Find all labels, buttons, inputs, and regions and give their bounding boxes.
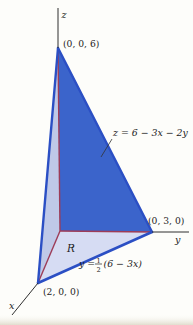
z-axis-label: z bbox=[61, 9, 68, 20]
x-axis-line bbox=[12, 283, 38, 315]
plane-over-region-diagram: z (0, 0, 6) z = 6 − 3x − 2y (0, 3, 0) y … bbox=[0, 0, 193, 325]
figure-canvas: z (0, 0, 6) z = 6 − 3x − 2y (0, 3, 0) y … bbox=[0, 0, 193, 325]
y-axis-label: y bbox=[174, 234, 181, 245]
region-R-label: R bbox=[66, 242, 75, 254]
hidden-y-axis-segment bbox=[60, 231, 152, 232]
page-edge-shading bbox=[0, 314, 193, 325]
boundary-equation-prefix: y = bbox=[78, 258, 95, 269]
boundary-equation-suffix: (6 − 3x) bbox=[104, 258, 143, 269]
x-axis-label: x bbox=[9, 300, 15, 311]
boundary-equation-label: y = 1 2 (6 − 3x) bbox=[78, 257, 142, 274]
apex-point-label: (0, 0, 6) bbox=[63, 38, 99, 49]
x-intercept-point-label: (2, 0, 0) bbox=[43, 286, 79, 297]
fraction-denominator: 2 bbox=[96, 266, 100, 274]
plane-equation-label: z = 6 − 3x − 2y bbox=[112, 127, 189, 138]
fraction-numerator: 1 bbox=[96, 257, 100, 265]
y-intercept-point-label: (0, 3, 0) bbox=[148, 215, 184, 226]
